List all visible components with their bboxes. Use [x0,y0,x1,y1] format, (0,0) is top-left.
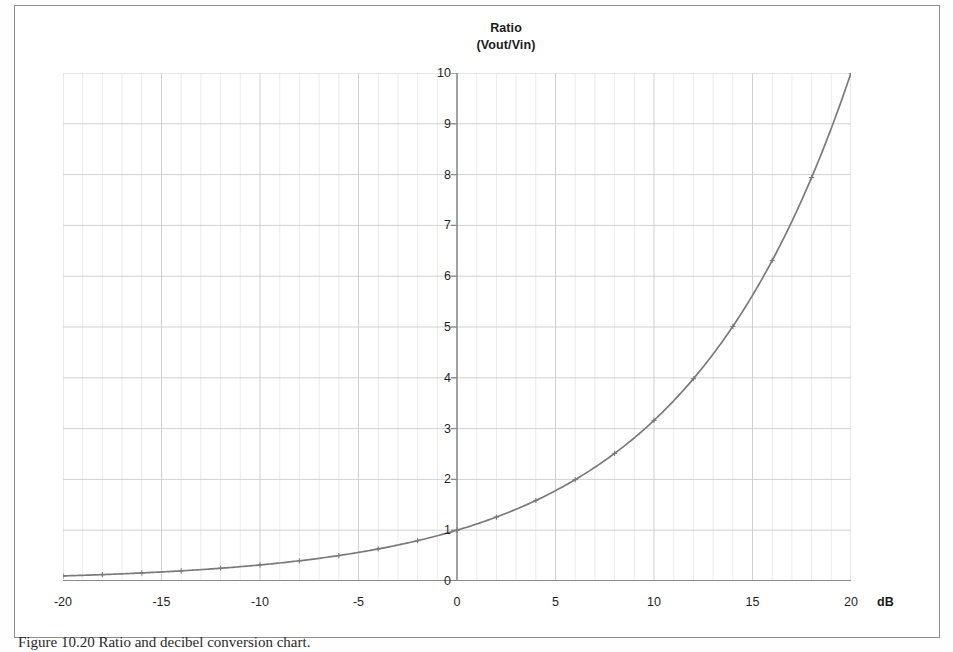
x-tick-label: 10 [647,595,661,609]
figure-frame: Ratio (Vout/Vin) 012345678910 -20-15-10-… [14,5,940,638]
y-tick-label: 9 [429,117,451,131]
x-tick-label: 5 [552,595,559,609]
y-tick-label: 4 [429,371,451,385]
x-tick-label: 20 [844,595,858,609]
x-tick-label: -10 [251,595,269,609]
scanned-page: Ratio (Vout/Vin) 012345678910 -20-15-10-… [0,0,953,652]
y-tick-label: 6 [429,269,451,283]
x-tick-label: -20 [54,595,72,609]
y-tick-label: 8 [429,168,451,182]
y-tick-label: 1 [429,523,451,537]
y-tick-label: 10 [429,66,451,80]
chart-title: Ratio (Vout/Vin) [15,20,941,54]
plot-area: 012345678910 -20-15-10-505101520 [63,73,851,581]
figure-caption: Figure 10.20 Ratio and decibel conversio… [18,634,918,651]
x-tick-label: -15 [152,595,170,609]
chart-title-sub: (Vout/Vin) [71,37,941,54]
chart-title-main: Ratio [71,20,941,37]
y-tick-label: 3 [429,422,451,436]
chart: Ratio (Vout/Vin) 012345678910 -20-15-10-… [15,6,941,639]
x-tick-label: 0 [454,595,461,609]
x-tick-label: -5 [353,595,364,609]
x-tick-label: 15 [746,595,760,609]
plot-svg [63,73,851,581]
x-axis-unit-label: dB [877,595,894,609]
y-tick-label: 2 [429,472,451,486]
y-tick-label: 0 [429,574,451,588]
y-tick-label: 7 [429,218,451,232]
y-tick-label: 5 [429,320,451,334]
